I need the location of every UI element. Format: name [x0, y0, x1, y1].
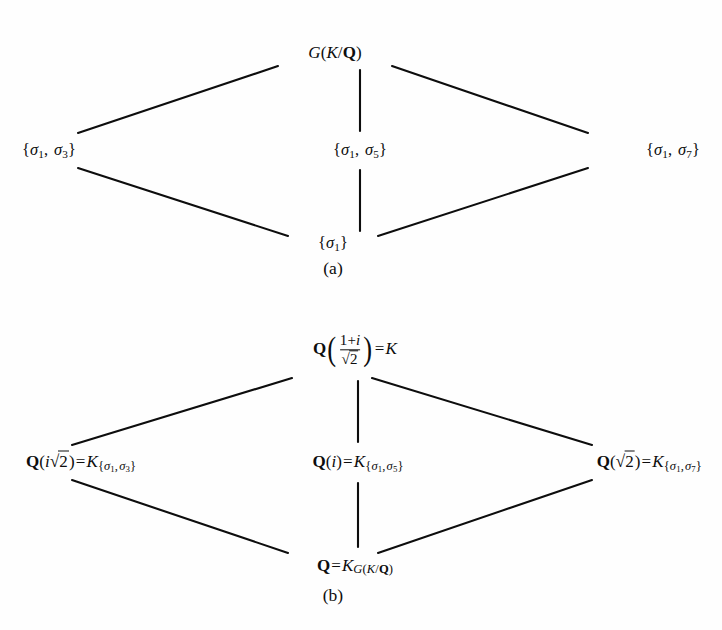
- node-b-bottom: Q=KG(K/Q): [317, 557, 393, 574]
- lbrace-a-left: {: [22, 140, 30, 159]
- lbrace-a-right: {: [646, 140, 654, 159]
- field-letter-K-b-bottom: K: [342, 556, 353, 575]
- edge-top-left: [78, 66, 278, 133]
- equals-b-top: =: [375, 339, 385, 358]
- radicand-b-right: 2: [624, 451, 635, 471]
- node-a-top: G(K/Q): [308, 44, 362, 61]
- fraction-group-b-top: (1+i√2): [326, 332, 373, 367]
- field-letter-K: K: [326, 43, 337, 62]
- field-letter-K-b-right: K: [652, 452, 663, 471]
- group-letter-G-b-bottom: G: [353, 562, 362, 576]
- big-rparen-b-top: ): [364, 337, 373, 364]
- lbrace-a-center: {: [333, 140, 341, 159]
- imaginary-unit-i: i: [356, 332, 360, 348]
- rparen-b-left: ): [69, 452, 75, 471]
- fixed-field-subscript-b-left: {σ1, σ3}: [98, 458, 136, 472]
- rbrace-a-center: }: [379, 140, 387, 159]
- edge-right-bottom: [378, 480, 592, 553]
- node-b-top: Q(1+i√2)=K: [313, 332, 397, 367]
- node-a-center: {σ1, σ5}: [333, 142, 387, 159]
- fixed-field-subscript-b-center: {σ1, σ5}: [365, 458, 403, 472]
- radicand-b-left: 2: [58, 451, 69, 471]
- fraction-denominator: √2: [340, 350, 361, 368]
- field-letter-K-b-center: K: [354, 452, 365, 471]
- caption-a: (a): [323, 260, 342, 278]
- comma-a-left: ,: [44, 140, 48, 159]
- sigma-a-left-2: σ: [54, 140, 62, 159]
- rationals-Q-b-bottom-sub: Q: [379, 562, 389, 576]
- rbrace-b-center: }: [397, 458, 403, 472]
- rationals-Q-b-right: Q: [597, 452, 610, 471]
- fraction-numerator: 1+i: [338, 332, 362, 349]
- fixed-field-subscript-b-right: {σ1, σ7}: [664, 458, 702, 472]
- rbrace-b-left: }: [130, 458, 136, 472]
- node-a-bottom: {σ1}: [318, 235, 348, 252]
- rationals-Q: Q: [343, 43, 356, 62]
- node-b-left: Q(i√2)=K{σ1, σ3}: [26, 453, 136, 470]
- comma-a-center: ,: [355, 140, 359, 159]
- rparen-b-bottom-sub: ): [389, 562, 393, 576]
- rbrace-b-right: }: [696, 458, 702, 472]
- edge-top-left: [72, 378, 292, 445]
- fixed-field-subscript-b-bottom: G(K/Q): [353, 562, 393, 576]
- rparen-b-center: ): [336, 452, 342, 471]
- edge-top-right: [392, 66, 588, 133]
- equals-b-center: =: [343, 452, 353, 471]
- big-lparen-b-top: (: [328, 337, 337, 364]
- radicand-b-top: 2: [349, 351, 359, 368]
- rbrace-a-right: }: [692, 140, 700, 159]
- fraction-b-top: 1+i√2: [338, 332, 362, 367]
- sigma-a-right-2: σ: [678, 140, 686, 159]
- comma-b-left: ,: [115, 458, 118, 472]
- radical-group-b-top: √2: [342, 352, 359, 368]
- lattice-diagram-b: Q(1+i√2)=K Q(i√2)=K{σ1, σ3} Q(i)=K{σ1, σ…: [0, 315, 722, 630]
- rbrace-a-bottom: }: [340, 233, 348, 252]
- comma-b-right: ,: [681, 458, 684, 472]
- edge-left-bottom: [72, 480, 288, 553]
- node-a-right: {σ1, σ7}: [646, 142, 700, 159]
- equals-b-bottom: =: [331, 556, 341, 575]
- node-b-center: Q(i)=K{σ1, σ5}: [312, 453, 403, 470]
- field-letter-K-b-top: K: [385, 339, 396, 358]
- comma-a-right: ,: [668, 140, 672, 159]
- equals-b-left: =: [76, 452, 86, 471]
- group-letter-G: G: [308, 43, 320, 62]
- caption-b: (b): [323, 587, 343, 605]
- field-letter-K-b-left: K: [86, 452, 97, 471]
- rationals-Q-b-top: Q: [313, 339, 326, 358]
- plus-sign: +: [347, 332, 356, 348]
- rationals-Q-b-bottom: Q: [317, 556, 330, 575]
- rbrace-a-left: }: [68, 140, 76, 159]
- figure-page: G(K/Q) {σ1, σ3} {σ1, σ5} {σ1, σ7} {σ1} (…: [0, 0, 722, 630]
- radical-group-b-left: √2: [50, 452, 69, 471]
- rparen-b-right: ): [635, 452, 641, 471]
- comma-b-center: ,: [382, 458, 385, 472]
- edge-top-right: [372, 378, 592, 445]
- rationals-Q-b-center: Q: [312, 452, 325, 471]
- lattice-diagram-a: G(K/Q) {σ1, σ3} {σ1, σ5} {σ1, σ7} {σ1} (…: [0, 0, 722, 300]
- edge-right-bottom: [378, 168, 588, 236]
- lbrace-a-bottom: {: [318, 233, 326, 252]
- rationals-Q-b-left: Q: [26, 452, 39, 471]
- edge-left-bottom: [78, 168, 288, 236]
- radical-group-b-right: √2: [616, 452, 635, 471]
- rparen-a-top: ): [356, 43, 362, 62]
- equals-b-right: =: [642, 452, 652, 471]
- node-a-left: {σ1, σ3}: [22, 142, 76, 159]
- sigma-a-center-2: σ: [365, 140, 373, 159]
- node-b-right: Q(√2)=K{σ1, σ7}: [597, 453, 702, 470]
